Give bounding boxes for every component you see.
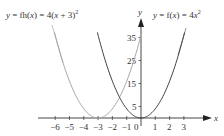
x-tick-label: 1 xyxy=(153,122,158,132)
leader-line-f xyxy=(178,28,186,55)
x-tick-label: −3 xyxy=(93,122,103,132)
x-tick-label: −1 xyxy=(122,122,132,132)
equation-f-label: y = f(x) = 4x2 xyxy=(152,9,201,20)
x-tick-label: −2 xyxy=(107,122,117,132)
x-tick-label: 3 xyxy=(181,122,186,132)
axes xyxy=(38,18,212,126)
leader-line-fh xyxy=(52,25,63,63)
equation-fh-label: y = fh(x) = 4(x + 3)2 xyxy=(5,9,78,20)
x-tick-label: −5 xyxy=(65,122,75,132)
x-tick-label: 2 xyxy=(167,122,172,132)
y-tick-label: 15 xyxy=(127,79,137,89)
graph-figure: −6−5−4−3−2−1123 5152535 x y 0 y = fh(x) … xyxy=(0,0,224,136)
y-axis-label: y xyxy=(137,7,142,17)
x-axis-label: x xyxy=(213,113,218,123)
y-axis-arrow-icon xyxy=(138,18,144,27)
x-tick-label: −4 xyxy=(79,122,89,132)
origin-label: 0 xyxy=(134,122,139,132)
x-axis-arrow-icon xyxy=(203,115,212,121)
x-tick-label: −6 xyxy=(50,122,60,132)
curve-fh xyxy=(54,32,141,118)
y-tick-label: 5 xyxy=(132,102,137,112)
y-tick-label: 35 xyxy=(127,33,137,43)
